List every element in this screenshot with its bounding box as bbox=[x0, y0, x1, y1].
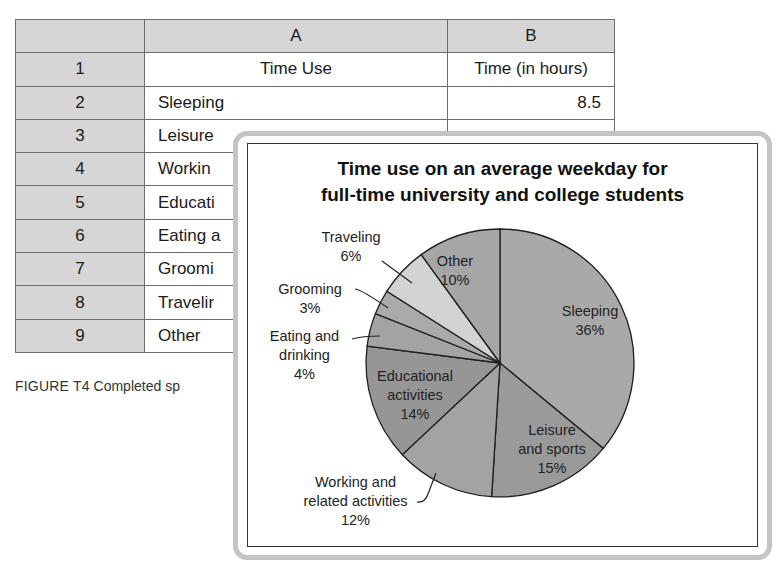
slice-label-pct: 3% bbox=[270, 299, 350, 318]
slice-label-text: Working and bbox=[283, 473, 428, 492]
slice-label-pct: 36% bbox=[540, 321, 640, 340]
slice-label-pct: 10% bbox=[425, 271, 485, 290]
slice-label-text: Other bbox=[425, 252, 485, 271]
slice-label-pct: 14% bbox=[365, 405, 465, 424]
slice-label-educational: Educational activities 14% bbox=[365, 367, 465, 424]
slice-label-text: Sleeping bbox=[540, 302, 640, 321]
slice-label-text: Leisure bbox=[497, 421, 607, 440]
slice-label-text: activities bbox=[365, 386, 465, 405]
slice-label-working: Working and related activities 12% bbox=[283, 473, 428, 530]
slice-label-pct: 12% bbox=[283, 511, 428, 530]
slice-label-traveling: Traveling 6% bbox=[316, 228, 386, 266]
slice-label-text: and sports bbox=[497, 440, 607, 459]
slice-label-pct: 4% bbox=[262, 365, 347, 384]
slice-label-text: drinking bbox=[262, 346, 347, 365]
slice-label-sleeping: Sleeping 36% bbox=[540, 302, 640, 340]
slice-label-other: Other 10% bbox=[425, 252, 485, 290]
slice-label-text: related activities bbox=[283, 492, 428, 511]
slice-label-text: Grooming bbox=[270, 280, 350, 299]
slice-label-pct: 6% bbox=[316, 247, 386, 266]
slice-label-text: Educational bbox=[365, 367, 465, 386]
slice-label-leisure: Leisure and sports 15% bbox=[497, 421, 607, 478]
slice-label-grooming: Grooming 3% bbox=[270, 280, 350, 318]
slice-label-pct: 15% bbox=[497, 459, 607, 478]
slice-label-text: Eating and bbox=[262, 327, 347, 346]
slice-label-eating: Eating and drinking 4% bbox=[262, 327, 347, 384]
slice-label-text: Traveling bbox=[316, 228, 386, 247]
